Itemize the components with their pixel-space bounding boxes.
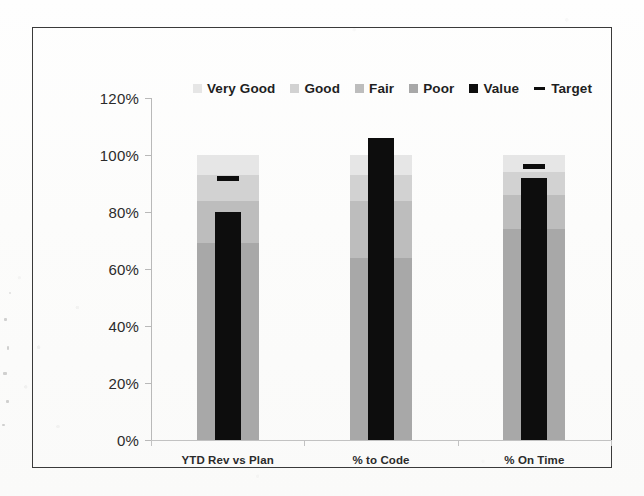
chart-frame: Very GoodGoodFairPoorValueTarget 0%20%40… xyxy=(32,27,612,468)
legend-swatch-icon xyxy=(290,84,299,93)
scan-artifact xyxy=(3,372,7,375)
bar-group[interactable] xyxy=(503,98,565,440)
legend-dash-icon xyxy=(534,87,545,90)
x-axis-tick xyxy=(611,440,612,446)
y-axis-tick xyxy=(145,383,151,384)
legend-swatch-icon xyxy=(409,84,418,93)
y-axis-tick xyxy=(145,155,151,156)
y-axis-tick xyxy=(145,212,151,213)
bar-group[interactable] xyxy=(197,98,259,440)
legend-label: Good xyxy=(304,81,340,96)
y-axis-tick xyxy=(145,326,151,327)
y-axis-tick-label: 100% xyxy=(100,147,139,164)
legend-swatch-icon xyxy=(355,84,364,93)
x-axis-category-label: % On Time xyxy=(504,454,564,466)
target-marker xyxy=(523,164,545,169)
scan-artifact xyxy=(9,292,11,294)
x-axis-tick xyxy=(151,440,152,446)
legend-swatch-icon xyxy=(469,84,478,93)
legend-item-target[interactable]: Target xyxy=(534,81,592,96)
value-bar[interactable] xyxy=(368,138,394,440)
legend-label: Target xyxy=(551,81,592,96)
value-bar[interactable] xyxy=(215,212,241,440)
x-axis-tick xyxy=(304,440,305,446)
scan-artifact xyxy=(6,400,9,403)
y-axis-line xyxy=(151,98,152,440)
legend-item-fair[interactable]: Fair xyxy=(355,81,394,96)
legend-item-value[interactable]: Value xyxy=(469,81,519,96)
y-axis-tick-label: 80% xyxy=(108,204,139,221)
x-axis-line xyxy=(151,440,611,441)
scan-artifact xyxy=(4,318,7,321)
y-axis-tick-label: 40% xyxy=(108,318,139,335)
y-axis-tick-label: 60% xyxy=(108,261,139,278)
bar-group[interactable] xyxy=(350,98,412,440)
legend-label: Fair xyxy=(369,81,394,96)
chart-legend: Very GoodGoodFairPoorValueTarget xyxy=(193,81,592,96)
legend-label: Value xyxy=(483,81,519,96)
x-axis-category-label: YTD Rev vs Plan xyxy=(182,454,274,466)
target-marker xyxy=(217,176,239,181)
y-axis-tick xyxy=(145,269,151,270)
y-axis-tick-label: 20% xyxy=(108,375,139,392)
legend-swatch-icon xyxy=(193,84,202,93)
y-axis-tick-label: 0% xyxy=(117,432,139,449)
y-axis-tick-label: 120% xyxy=(100,90,139,107)
legend-label: Poor xyxy=(423,81,454,96)
x-axis-tick xyxy=(458,440,459,446)
legend-label: Very Good xyxy=(207,81,275,96)
plot-area: 0%20%40%60%80%100%120%YTD Rev vs Plan% t… xyxy=(151,98,611,440)
qualitative-band-very-good xyxy=(197,155,259,175)
value-bar[interactable] xyxy=(521,178,547,440)
legend-item-poor[interactable]: Poor xyxy=(409,81,454,96)
scan-artifact xyxy=(7,346,9,350)
x-axis-category-label: % to Code xyxy=(352,454,409,466)
target-marker xyxy=(370,156,392,161)
y-axis-tick xyxy=(145,98,151,99)
legend-item-good[interactable]: Good xyxy=(290,81,340,96)
legend-item-very-good[interactable]: Very Good xyxy=(193,81,275,96)
scan-artifact xyxy=(2,424,5,426)
